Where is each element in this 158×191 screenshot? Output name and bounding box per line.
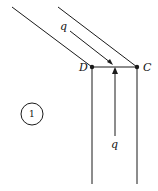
outflow-arrowhead-icon bbox=[112, 67, 118, 74]
label-d: D bbox=[78, 61, 88, 74]
region-number: 1 bbox=[29, 109, 35, 119]
label-q-inflow: q bbox=[60, 20, 67, 33]
label-q-outflow: q bbox=[111, 138, 118, 151]
point-c-dot bbox=[135, 65, 139, 69]
flow-diagram: D C q q 1 bbox=[0, 0, 158, 191]
point-d-dot bbox=[90, 65, 94, 69]
left-inclined-wall bbox=[12, 7, 92, 67]
inflow-arrowhead-icon bbox=[107, 59, 113, 65]
label-c: C bbox=[143, 61, 152, 74]
diagram: D C q q 1 bbox=[0, 0, 158, 191]
inflow-arrow bbox=[70, 31, 111, 63]
right-inclined-wall bbox=[58, 7, 137, 67]
